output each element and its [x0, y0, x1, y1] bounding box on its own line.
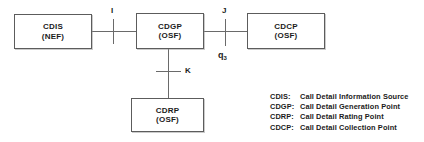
protocol-label-base: q — [218, 50, 224, 60]
node-cdis-name: CDIS — [43, 22, 63, 31]
legend-row: CDGP: Call Detail Generation Point — [270, 102, 409, 112]
legend-abbr-cdis: CDIS: — [270, 92, 300, 102]
interface-label-j: J — [222, 6, 227, 15]
legend-desc-cdcp: Call Detail Collection Point — [300, 123, 409, 133]
connector-cdgp-to-cdcp — [204, 31, 248, 32]
node-cdcp-type: (OSF) — [275, 31, 298, 40]
network-architecture-diagram: I J K q3 CDIS (NEF) CDGP (OSF) CDCP (OSF… — [0, 0, 424, 142]
interface-tick-k — [156, 71, 181, 72]
node-cdrp-type: (OSF) — [156, 115, 179, 124]
connector-cdis-to-cdgp — [92, 31, 137, 32]
legend-row: CDIS: Call Detail Information Source — [270, 92, 409, 102]
node-cdcp-name: CDCP — [274, 22, 297, 31]
legend-row: CDRP: Call Detail Rating Point — [270, 112, 409, 122]
node-cdcp: CDCP (OSF) — [247, 13, 325, 49]
node-cdrp-name: CDRP — [156, 106, 179, 115]
legend-desc-cdrp: Call Detail Rating Point — [300, 112, 409, 122]
legend-row: CDCP: Call Detail Collection Point — [270, 123, 409, 133]
legend: CDIS: Call Detail Information Source CDG… — [270, 92, 409, 133]
protocol-label-subscript: 3 — [224, 55, 227, 61]
protocol-label-q3: q3 — [218, 50, 227, 60]
legend-abbr-cdgp: CDGP: — [270, 102, 300, 112]
legend-desc-cdis: Call Detail Information Source — [300, 92, 409, 102]
connector-cdgp-to-cdrp — [168, 49, 169, 99]
node-cdis: CDIS (NEF) — [14, 14, 92, 49]
legend-abbr-cdrp: CDRP: — [270, 112, 300, 122]
node-cdrp: CDRP (OSF) — [131, 98, 204, 132]
interface-label-k: K — [185, 66, 191, 75]
legend-desc-cdgp: Call Detail Generation Point — [300, 102, 409, 112]
legend-abbr-cdcp: CDCP: — [270, 123, 300, 133]
interface-tick-i — [113, 19, 114, 44]
node-cdgp: CDGP (OSF) — [136, 13, 204, 49]
node-cdis-type: (NEF) — [42, 32, 64, 41]
node-cdgp-name: CDGP — [158, 22, 182, 31]
interface-tick-j — [225, 19, 226, 46]
node-cdgp-type: (OSF) — [159, 31, 182, 40]
interface-label-i: I — [111, 6, 113, 15]
